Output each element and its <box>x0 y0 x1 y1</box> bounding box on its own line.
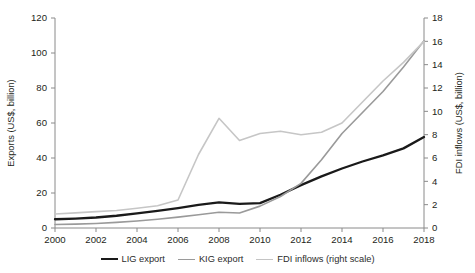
x-axis-tick-label: 2012 <box>290 234 311 245</box>
y-axis-tick-label: 60 <box>36 117 47 128</box>
y-axis-tick-label: 80 <box>36 82 47 93</box>
x-axis-tick-label: 2006 <box>167 234 188 245</box>
y2-axis-tick-label: 8 <box>432 129 437 140</box>
y2-axis-tick-label: 18 <box>432 12 443 23</box>
x-axis-tick-label: 2002 <box>85 234 106 245</box>
series-line-kig-export <box>55 41 424 225</box>
y2-axis-tick-label: 16 <box>432 36 443 47</box>
top-caption <box>0 0 475 7</box>
x-axis-tick-label: 2014 <box>331 234 353 245</box>
x-axis-tick-label: 2004 <box>126 234 148 245</box>
legend-item-label: FDI inflows (right scale) <box>277 254 374 264</box>
legend-item-label: LIG export <box>122 254 165 264</box>
x-axis-tick-label: 2010 <box>249 234 270 245</box>
legend-item-label: KIG export <box>199 254 243 264</box>
legend-swatch-kig-icon <box>178 259 195 260</box>
y2-axis-tick-label: 4 <box>432 176 438 187</box>
y2-axis-tick-label: 14 <box>432 59 443 70</box>
line-chart-plot: 020406080100120Exports (US$, billion)024… <box>0 8 475 246</box>
series-line-fdi-inflows-right-scale <box>55 41 424 214</box>
y-axis-title: Exports (US$, billion) <box>6 79 16 166</box>
chart-legend: LIG exportKIG exportFDI inflows (right s… <box>0 249 475 269</box>
series-layer <box>55 41 424 225</box>
legend-item-lig[interactable]: LIG export <box>101 254 165 264</box>
y-axis-tick-label: 120 <box>31 12 47 23</box>
series-line-lig-export <box>55 137 424 219</box>
legend-item-fdi[interactable]: FDI inflows (right scale) <box>256 254 374 264</box>
y-axis-tick-label: 40 <box>36 152 47 163</box>
y2-axis-title: FDI inflows (US$, billion) <box>454 72 464 174</box>
x-axis-tick-label: 2008 <box>208 234 229 245</box>
chart-figure: 020406080100120Exports (US$, billion)024… <box>0 0 475 273</box>
legend-swatch-lig-icon <box>101 258 118 260</box>
y2-axis-tick-label: 6 <box>432 152 437 163</box>
y-axis-tick-label: 20 <box>36 187 47 198</box>
y2-axis-tick-label: 2 <box>432 199 437 210</box>
x-axis-tick-label: 2018 <box>413 234 434 245</box>
x-axis-tick-label: 2016 <box>372 234 393 245</box>
axes-layer: 020406080100120Exports (US$, billion)024… <box>6 12 464 245</box>
y-axis-tick-label: 0 <box>42 222 47 233</box>
y2-axis-tick-label: 0 <box>432 222 437 233</box>
y-axis-tick-label: 100 <box>31 47 47 58</box>
legend-swatch-fdi-icon <box>256 259 273 260</box>
y2-axis-tick-label: 10 <box>432 106 443 117</box>
y2-axis-tick-label: 12 <box>432 82 443 93</box>
legend-item-kig[interactable]: KIG export <box>178 254 243 264</box>
x-axis-tick-label: 2000 <box>44 234 65 245</box>
